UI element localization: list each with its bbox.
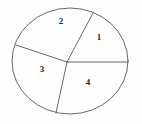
figure-container: 1 2 3 4 (0, 0, 142, 124)
divider-lower-chord (56, 62, 67, 113)
divider-upper-chord (67, 13, 93, 62)
divider-left-chord (16, 45, 67, 62)
ellipse-outline (12, 8, 128, 114)
region-label-2: 2 (59, 16, 64, 26)
region-label-1: 1 (97, 32, 102, 42)
region-label-3: 3 (40, 64, 45, 74)
region-label-4: 4 (86, 77, 91, 87)
partitioned-ellipse-figure: 1 2 3 4 (0, 0, 142, 124)
